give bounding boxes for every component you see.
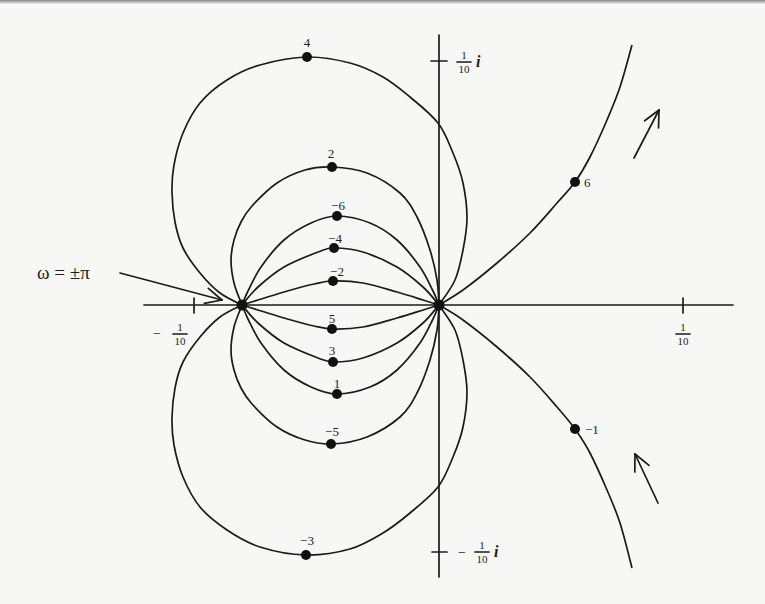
parameter-dot [301,550,311,560]
parameter-dot [302,52,312,62]
curve-minus-2 [242,281,439,305]
point-omega-pm-pi [237,300,248,311]
parameter-dot [328,357,338,367]
tick-imag-minus-tenth: −110i [432,539,499,565]
tick-label-denominator: 10 [477,553,489,565]
tick-label-sign: − [458,545,466,560]
curve-label: −2 [330,264,344,279]
curve-minus-1 [439,305,632,568]
point-origin [434,300,445,311]
parameter-dot [326,439,336,449]
curve-label: 3 [329,343,336,358]
curve-label: −4 [328,231,342,246]
curve-label: −6 [331,198,345,213]
annotation-omega-pm-pi: ω = ±π [37,262,90,283]
parameter-dot [570,177,580,187]
arrowhead-barb [659,110,660,128]
curve-label: 2 [328,146,335,161]
curve-5 [242,305,439,329]
tick-label-sign: − [153,326,161,341]
parameter-dot [570,424,580,434]
tick-label-denominator: 10 [459,63,471,75]
curve-1 [242,305,439,394]
tick-label-numerator: 1 [479,539,485,551]
ticks-group: −110110110i−110i [153,49,690,565]
curve-4 [172,57,467,305]
curve-label: 6 [584,175,591,190]
arrowhead-barb [204,300,222,303]
tick-label-numerator: 1 [461,49,467,61]
curve-label: 1 [334,376,341,391]
curve-6 [439,45,632,305]
complex-plane-diagram: −110110110i−110i 42−6−4−2531−5−36−1 ω = … [0,0,765,604]
arrows-group [120,110,659,503]
tick-label-numerator: 1 [680,321,686,333]
imaginary-unit-label: i [494,543,499,560]
curve-labels-group: 42−6−4−2531−5−36−1 [300,35,599,548]
curve-minus-3 [172,305,467,555]
tick-label-denominator: 10 [175,335,187,347]
curve-label: −1 [585,422,599,437]
direction-arrow-lower [635,454,658,503]
arrow-shaft [635,454,658,503]
curve-minus-6 [242,216,439,305]
tick-label-denominator: 10 [678,335,690,347]
dots-group [237,52,581,560]
parameter-dot [327,162,337,172]
annotation-arrow [120,273,222,303]
direction-arrow-upper [634,110,659,158]
imaginary-unit-label: i [476,53,481,70]
arrow-shaft [634,110,659,158]
curve-label: −5 [325,424,339,439]
curve-label: 4 [304,35,311,50]
tick-label-numerator: 1 [177,321,183,333]
curve-label: 5 [329,311,336,326]
curve-label: −3 [300,533,314,548]
arrow-shaft [120,273,222,300]
